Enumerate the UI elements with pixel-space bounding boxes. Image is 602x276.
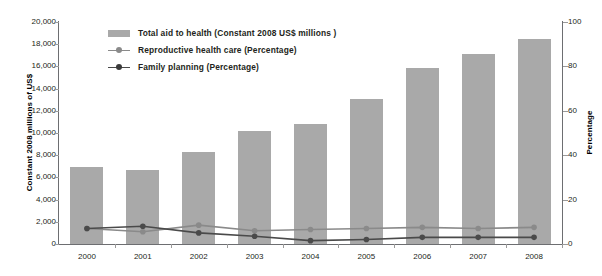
x-tick-label: 2005 bbox=[338, 252, 394, 261]
y-tick-mark-right bbox=[563, 200, 568, 201]
line-marker bbox=[196, 222, 202, 228]
x-tick-label: 2007 bbox=[450, 252, 506, 261]
y-tick-left: 8,000 bbox=[10, 150, 56, 159]
y-tick-left: 6,000 bbox=[10, 172, 56, 181]
line-marker bbox=[419, 235, 425, 241]
y-tick-left: 20,000 bbox=[10, 17, 56, 26]
legend-swatch-line-icon bbox=[108, 63, 130, 72]
line-marker bbox=[140, 229, 146, 235]
x-tick-mark bbox=[227, 244, 228, 248]
x-tick-mark bbox=[115, 244, 116, 248]
line-marker bbox=[364, 237, 370, 243]
line-marker bbox=[475, 235, 481, 241]
x-tick-label: 2002 bbox=[171, 252, 227, 261]
y-tick-left: 10,000 bbox=[10, 128, 56, 137]
line-marker bbox=[531, 225, 537, 231]
y-tick-left: 14,000 bbox=[10, 84, 56, 93]
line-marker bbox=[364, 226, 370, 232]
y-tick-mark-right bbox=[563, 22, 568, 23]
line-marker bbox=[308, 227, 314, 233]
y-axis-right-title: Percentage bbox=[585, 73, 594, 193]
legend-item-reproductive-health: Reproductive health care (Percentage) bbox=[108, 43, 336, 57]
x-axis-line bbox=[58, 244, 563, 245]
y-tick-right: 80 bbox=[568, 61, 602, 70]
y-tick-mark-right bbox=[563, 111, 568, 112]
line-marker bbox=[475, 226, 481, 232]
legend-label-reproductive-health: Reproductive health care (Percentage) bbox=[138, 45, 297, 55]
y-tick-mark-right bbox=[563, 66, 568, 67]
y-tick-right: 40 bbox=[568, 150, 602, 159]
x-tick-label: 2003 bbox=[227, 252, 283, 261]
legend-label-total-aid: Total aid to health (Constant 2008 US$ m… bbox=[138, 28, 336, 38]
line-marker bbox=[252, 228, 258, 234]
x-tick-label: 2001 bbox=[115, 252, 171, 261]
line-marker bbox=[140, 223, 146, 229]
y-tick-left: 2,000 bbox=[10, 217, 56, 226]
legend-label-family-planning: Family planning (Percentage) bbox=[138, 62, 259, 72]
line-marker bbox=[308, 238, 314, 244]
y-tick-left: 16,000 bbox=[10, 61, 56, 70]
x-tick-mark bbox=[171, 244, 172, 248]
line-marker bbox=[196, 230, 202, 236]
legend-swatch-line-icon bbox=[108, 46, 130, 55]
y-tick-right: 20 bbox=[568, 195, 602, 204]
x-tick-label: 2004 bbox=[283, 252, 339, 261]
line-marker bbox=[531, 235, 537, 241]
y-axis-right-line bbox=[562, 21, 563, 245]
y-tick-left: 18,000 bbox=[10, 39, 56, 48]
x-tick-mark bbox=[283, 244, 284, 248]
x-tick-mark bbox=[506, 244, 507, 248]
y-tick-right: 0 bbox=[568, 239, 602, 248]
legend-swatch-bar-icon bbox=[108, 30, 130, 37]
chart-container: Constant 2008 millions of US$ Percentage… bbox=[0, 0, 602, 276]
legend-item-family-planning: Family planning (Percentage) bbox=[108, 60, 336, 74]
legend: Total aid to health (Constant 2008 US$ m… bbox=[108, 26, 336, 77]
line-marker bbox=[252, 233, 258, 239]
y-tick-left: 12,000 bbox=[10, 106, 56, 115]
y-tick-left: 4,000 bbox=[10, 195, 56, 204]
x-tick-label: 2006 bbox=[394, 252, 450, 261]
x-tick-mark bbox=[562, 244, 563, 248]
line-marker bbox=[84, 226, 90, 232]
legend-item-total-aid: Total aid to health (Constant 2008 US$ m… bbox=[108, 26, 336, 40]
y-tick-right: 60 bbox=[568, 106, 602, 115]
x-tick-label: 2008 bbox=[506, 252, 562, 261]
y-tick-mark-left bbox=[54, 244, 59, 245]
y-tick-mark-right bbox=[563, 244, 568, 245]
x-tick-label: 2000 bbox=[59, 252, 115, 261]
y-tick-left: 0 bbox=[10, 239, 56, 248]
x-tick-mark bbox=[394, 244, 395, 248]
x-tick-mark bbox=[338, 244, 339, 248]
x-tick-mark bbox=[450, 244, 451, 248]
y-tick-mark-right bbox=[563, 155, 568, 156]
y-tick-right: 100 bbox=[568, 17, 602, 26]
line-marker bbox=[419, 225, 425, 231]
